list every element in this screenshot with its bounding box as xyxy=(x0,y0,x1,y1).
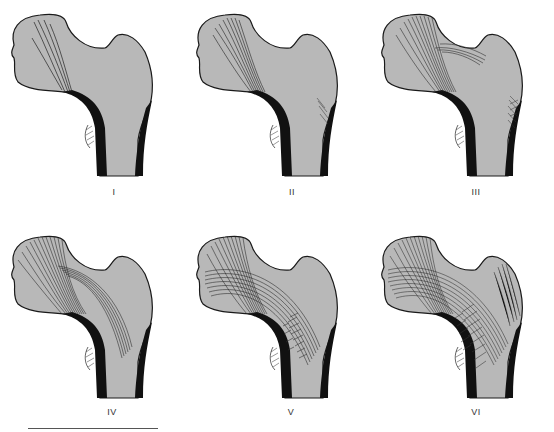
panel-label: V xyxy=(276,407,306,417)
panel-label: I xyxy=(99,187,129,197)
panel-label: II xyxy=(277,187,307,197)
panel-stage-5: V xyxy=(185,222,370,432)
panel-label: III xyxy=(461,187,491,197)
panel-stage-6: VI xyxy=(370,222,554,432)
panel-stage-4: IV xyxy=(0,222,185,432)
femur-diagram-stage-6 xyxy=(370,222,554,432)
bottom-rule-divider xyxy=(28,428,158,429)
femur-diagram-stage-4 xyxy=(0,222,185,432)
panel-stage-3: III xyxy=(370,0,554,215)
panel-stage-2: II xyxy=(185,0,370,215)
panel-label: IV xyxy=(97,407,127,417)
femur-diagram-stage-1 xyxy=(0,0,185,215)
femur-diagram-stage-5 xyxy=(185,222,370,432)
femur-diagram-stage-2 xyxy=(185,0,370,215)
femur-diagram-stage-3 xyxy=(370,0,554,215)
panel-label: VI xyxy=(461,407,491,417)
panel-stage-1: I xyxy=(0,0,185,215)
